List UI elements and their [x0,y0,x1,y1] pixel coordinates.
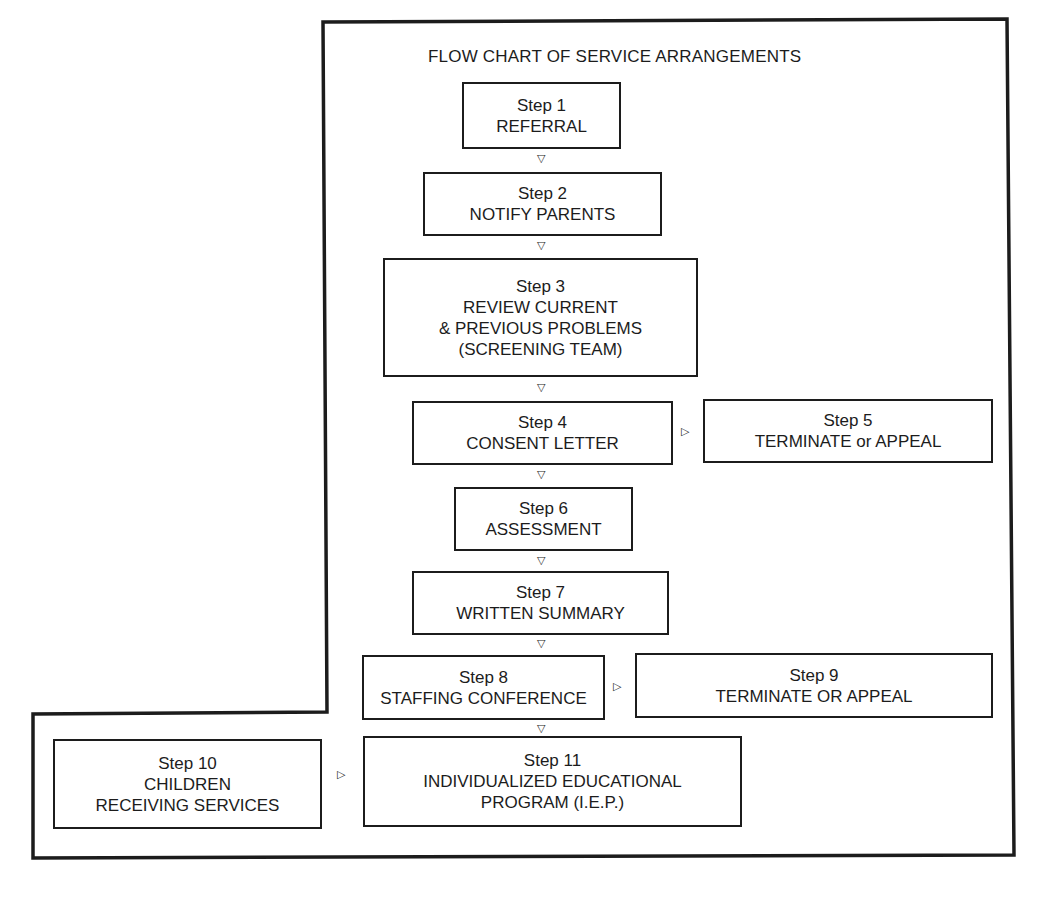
step-9-box: Step 9 TERMINATE OR APPEAL [635,653,993,718]
step-5-text: TERMINATE or APPEAL [755,431,942,452]
step-4-text: CONSENT LETTER [466,433,619,454]
step-11-label: Step 11 [524,750,581,771]
step-9-text: TERMINATE OR APPEAL [715,686,912,707]
step-10-text-line-1: CHILDREN [144,774,231,795]
arrow-right-icon: ▷ [611,681,623,692]
step-3-label: Step 3 [516,276,565,297]
step-4-box: Step 4 CONSENT LETTER [412,401,673,465]
step-3-text-line-1: REVIEW CURRENT [463,297,618,318]
step-5-box: Step 5 TERMINATE or APPEAL [703,399,993,463]
step-6-box: Step 6 ASSESSMENT [454,487,633,551]
step-11-box: Step 11 INDIVIDUALIZED EDUCATIONAL PROGR… [363,736,742,827]
step-10-box: Step 10 CHILDREN RECEIVING SERVICES [53,739,322,829]
step-4-label: Step 4 [518,412,567,433]
arrow-down-icon: ▽ [535,240,547,251]
step-11-text-line-1: INDIVIDUALIZED EDUCATIONAL [423,771,682,792]
step-7-box: Step 7 WRITTEN SUMMARY [412,571,669,635]
step-7-label: Step 7 [516,582,565,603]
chart-title: FLOW CHART OF SERVICE ARRANGEMENTS [428,47,948,67]
arrow-down-icon: ▽ [535,723,547,734]
step-6-label: Step 6 [519,498,568,519]
step-1-text: REFERRAL [496,116,587,137]
step-8-text: STAFFING CONFERENCE [380,688,587,709]
arrow-down-icon: ▽ [535,555,547,566]
step-3-box: Step 3 REVIEW CURRENT & PREVIOUS PROBLEM… [383,258,698,377]
arrow-down-icon: ▽ [535,469,547,480]
step-6-text: ASSESSMENT [485,519,601,540]
step-9-label: Step 9 [789,665,838,686]
step-1-box: Step 1 REFERRAL [462,82,621,149]
arrow-down-icon: ▽ [535,382,547,393]
step-3-text-line-3: (SCREENING TEAM) [458,339,622,360]
step-5-label: Step 5 [823,410,872,431]
step-1-label: Step 1 [517,95,566,116]
step-3-text-line-2: & PREVIOUS PROBLEMS [439,318,642,339]
step-7-text: WRITTEN SUMMARY [456,603,625,624]
arrow-right-icon: ▷ [679,426,691,437]
step-10-text-line-2: RECEIVING SERVICES [96,795,280,816]
step-2-text: NOTIFY PARENTS [470,204,616,225]
step-11-text-line-2: PROGRAM (I.E.P.) [481,792,624,813]
step-10-label: Step 10 [158,753,217,774]
step-2-label: Step 2 [518,183,567,204]
step-8-box: Step 8 STAFFING CONFERENCE [362,655,605,720]
step-8-label: Step 8 [459,667,508,688]
step-2-box: Step 2 NOTIFY PARENTS [423,172,662,236]
arrow-down-icon: ▽ [535,153,547,164]
arrow-down-icon: ▽ [535,638,547,649]
arrow-right-icon: ▷ [335,769,347,780]
